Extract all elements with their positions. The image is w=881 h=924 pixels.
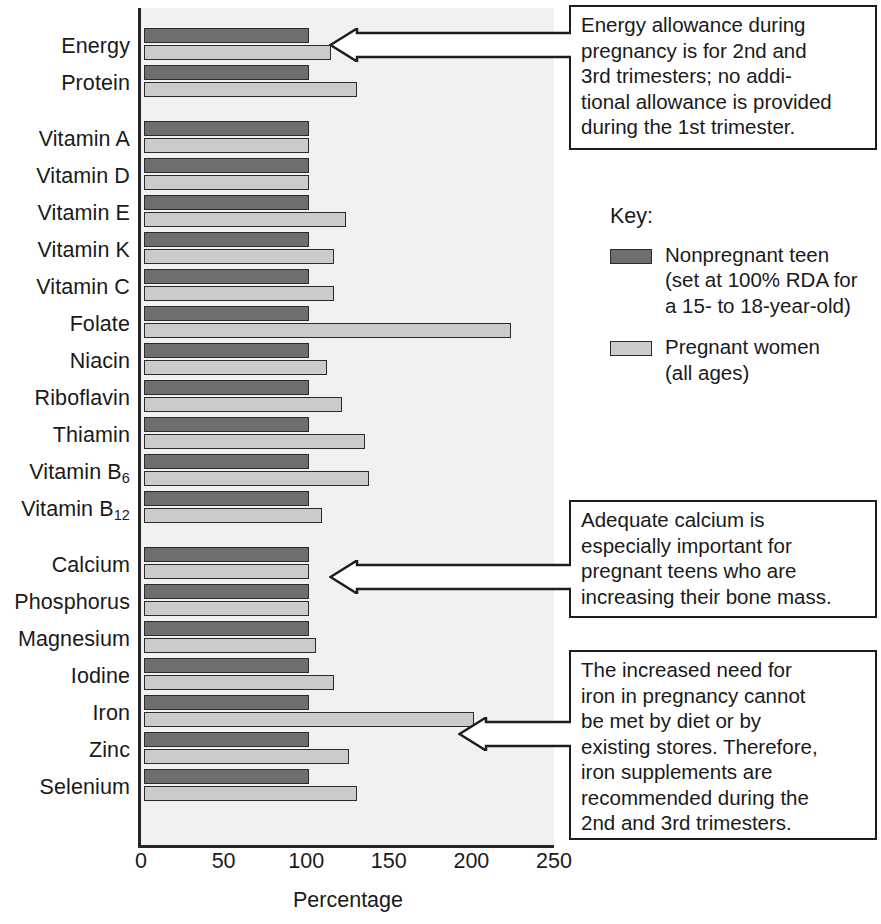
energy-callout-text: Energy allowance during pregnancy is for… <box>581 12 867 140</box>
category-label-vitamin-b12: Vitamin B12 <box>21 499 130 521</box>
bar-pregnant-magnesium <box>144 638 316 653</box>
category-label-vitamin-a: Vitamin A <box>39 129 130 151</box>
x-axis-title: Percentage <box>138 888 558 913</box>
calcium-callout-arrow <box>329 560 571 594</box>
x-tick-150: 150 <box>371 851 407 873</box>
category-label-riboflavin: Riboflavin <box>35 388 130 410</box>
bar-pregnant-protein <box>144 82 357 97</box>
category-label-phosphorus: Phosphorus <box>14 592 130 614</box>
iron-callout-arrow <box>458 717 571 751</box>
calcium-callout-box: Adequate calcium is especially important… <box>569 500 877 618</box>
bar-pregnant-niacin <box>144 360 327 375</box>
legend-title: Key: <box>610 206 881 228</box>
category-label-protein: Protein <box>61 73 130 95</box>
category-label-vitamin-k: Vitamin K <box>37 240 130 262</box>
bar-nonpregnant-vitamin-k <box>144 232 309 247</box>
bar-pregnant-folate <box>144 323 511 338</box>
legend-item-nonpregnant-teen: Nonpregnant teen (set at 100% RDA for a … <box>610 242 881 319</box>
bar-nonpregnant-phosphorus <box>144 584 309 599</box>
category-label-iodine: Iodine <box>71 666 130 688</box>
legend-swatch-light-icon <box>610 341 652 356</box>
bar-nonpregnant-riboflavin <box>144 380 309 395</box>
energy-callout-box: Energy allowance during pregnancy is for… <box>569 5 877 150</box>
energy-callout-arrow <box>329 28 571 62</box>
bar-nonpregnant-folate <box>144 306 309 321</box>
bar-nonpregnant-vitamin-d <box>144 158 309 173</box>
bar-pregnant-vitamin-c <box>144 286 334 301</box>
bar-nonpregnant-protein <box>144 65 309 80</box>
category-label-energy: Energy <box>61 36 130 58</box>
category-label-zinc: Zinc <box>89 740 130 762</box>
bar-pregnant-vitamin-b12 <box>144 508 322 523</box>
bar-nonpregnant-magnesium <box>144 621 309 636</box>
bar-pregnant-energy <box>144 45 331 60</box>
bar-pregnant-vitamin-b6 <box>144 471 369 486</box>
bar-pregnant-vitamin-e <box>144 212 346 227</box>
category-label-iron: Iron <box>93 703 130 725</box>
category-label-niacin: Niacin <box>70 351 130 373</box>
legend-item-pregnant-women: Pregnant women (all ages) <box>610 334 881 385</box>
bar-pregnant-calcium <box>144 564 309 579</box>
bar-nonpregnant-iron <box>144 695 309 710</box>
legend-item-label: Pregnant women (all ages) <box>665 334 820 385</box>
category-label-calcium: Calcium <box>52 555 130 577</box>
bar-nonpregnant-thiamin <box>144 417 309 432</box>
x-tick-250: 250 <box>536 851 572 873</box>
bar-pregnant-phosphorus <box>144 601 309 616</box>
bar-nonpregnant-vitamin-b6 <box>144 454 309 469</box>
calcium-callout-text: Adequate calcium is especially important… <box>581 507 867 609</box>
category-label-vitamin-e: Vitamin E <box>37 203 130 225</box>
bar-nonpregnant-vitamin-e <box>144 195 309 210</box>
legend-item-label: Nonpregnant teen (set at 100% RDA for a … <box>665 242 858 319</box>
x-tick-100: 100 <box>288 851 324 873</box>
bar-nonpregnant-selenium <box>144 769 309 784</box>
bar-pregnant-vitamin-a <box>144 138 309 153</box>
x-tick-200: 200 <box>453 851 489 873</box>
bar-pregnant-iodine <box>144 675 334 690</box>
category-label-vitamin-d: Vitamin D <box>36 166 130 188</box>
iron-callout-text: The increased need for iron in pregnancy… <box>581 657 867 836</box>
category-label-magnesium: Magnesium <box>18 629 130 651</box>
category-label-folate: Folate <box>70 314 130 336</box>
bar-nonpregnant-niacin <box>144 343 309 358</box>
bar-pregnant-riboflavin <box>144 397 342 412</box>
x-tick-50: 50 <box>212 851 236 873</box>
bar-pregnant-iron <box>144 712 474 727</box>
category-label-thiamin: Thiamin <box>53 425 130 447</box>
bar-pregnant-selenium <box>144 786 357 801</box>
bar-nonpregnant-vitamin-a <box>144 121 309 136</box>
bar-nonpregnant-zinc <box>144 732 309 747</box>
legend: Key: Nonpregnant teen (set at 100% RDA f… <box>610 206 881 401</box>
category-label-vitamin-b6: Vitamin B6 <box>29 462 130 484</box>
bar-nonpregnant-calcium <box>144 547 309 562</box>
bar-nonpregnant-iodine <box>144 658 309 673</box>
bar-pregnant-vitamin-k <box>144 249 334 264</box>
x-tick-0: 0 <box>135 851 147 873</box>
bar-pregnant-thiamin <box>144 434 365 449</box>
category-label-selenium: Selenium <box>40 777 130 799</box>
bar-pregnant-zinc <box>144 749 349 764</box>
iron-callout-box: The increased need for iron in pregnancy… <box>569 650 877 840</box>
category-label-vitamin-c: Vitamin C <box>36 277 130 299</box>
bar-nonpregnant-energy <box>144 28 309 43</box>
bar-nonpregnant-vitamin-b12 <box>144 491 309 506</box>
bar-pregnant-vitamin-d <box>144 175 309 190</box>
category-axis-labels: EnergyProteinVitamin AVitamin DVitamin E… <box>0 8 130 848</box>
x-axis-ticks: 050100150200250 <box>138 851 558 881</box>
bar-nonpregnant-vitamin-c <box>144 269 309 284</box>
legend-swatch-dark-icon <box>610 249 652 264</box>
